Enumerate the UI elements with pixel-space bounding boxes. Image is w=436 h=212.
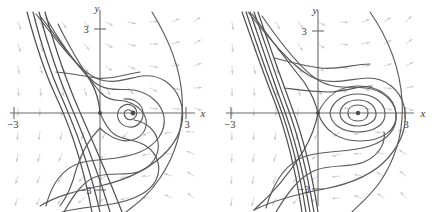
direction-field-right xyxy=(231,16,414,206)
saddle-point-marker xyxy=(316,111,320,115)
y-axis-label: y xyxy=(312,4,318,16)
left-fan-curve-4 xyxy=(254,12,314,212)
x-axis-label: x xyxy=(200,107,206,119)
trajectories-left xyxy=(27,12,183,212)
x-tick-label-positive: 3 xyxy=(184,119,189,130)
x-tick-label-positive: 3 xyxy=(403,119,408,130)
lower-plateau-orbit xyxy=(64,120,158,212)
saddle-point-marker xyxy=(98,111,102,115)
left-fan-curve-5 xyxy=(258,12,318,212)
y-tick-label-negative: −3 xyxy=(298,184,309,195)
left-fan-curve-4 xyxy=(45,12,122,212)
spiral-focus-marker xyxy=(131,111,136,116)
orbit-shelf-upper xyxy=(284,86,372,92)
x-tick-label-negative: −3 xyxy=(7,119,18,130)
left-phase-portrait-svg: y x 3 −3 −3 3 xyxy=(0,0,218,212)
x-tick-label-negative: −3 xyxy=(224,119,235,130)
right-phase-portrait-svg: y x 3 −3 −3 3 xyxy=(218,0,436,212)
figure-container: y x 3 −3 −3 3 xyxy=(0,0,436,212)
y-tick-label-negative: −3 xyxy=(80,185,91,196)
y-tick-label-positive: 3 xyxy=(301,26,306,37)
left-fan-curve-2 xyxy=(33,12,100,212)
upper-plateau-orbit xyxy=(56,72,140,78)
y-tick-label-positive: 3 xyxy=(83,24,88,35)
mid-orbit xyxy=(46,18,164,206)
trajectories-right xyxy=(242,12,405,212)
x-axis-label: x xyxy=(420,107,426,119)
center-point-marker xyxy=(356,111,360,115)
y-axis-label: y xyxy=(94,2,100,14)
left-phase-portrait-panel: y x 3 −3 −3 3 xyxy=(0,0,218,212)
right-phase-portrait-panel: y x 3 −3 −3 3 xyxy=(218,0,436,212)
